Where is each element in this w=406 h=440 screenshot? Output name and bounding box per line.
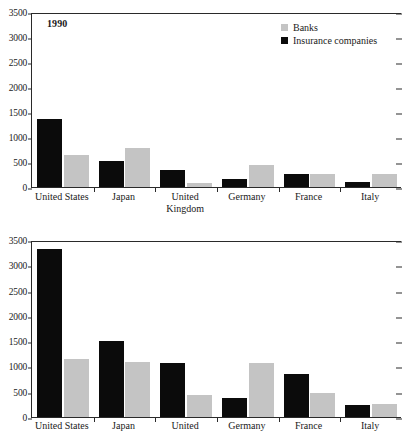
legend-label-insurance: Insurance companies (293, 35, 377, 46)
y-axis-tick-mark (28, 419, 33, 420)
y-axis-tick-mark (28, 164, 33, 165)
y-axis-tick-mark (28, 64, 33, 65)
y-axis-tick-mark-right (396, 317, 402, 318)
y-axis-tick-mark-right (396, 64, 402, 65)
bar-banks (310, 393, 335, 417)
y-axis-tick-label: 2000 (1, 84, 27, 94)
x-axis-category-label: Japan (112, 191, 135, 203)
bar-banks (249, 363, 274, 417)
y-axis-tick-label: 3500 (1, 237, 27, 247)
bar-banks (64, 155, 89, 187)
y-axis-tick-mark (28, 393, 33, 394)
bar-insurance (222, 179, 247, 187)
chart-panel-2001: 0500100015002000250030003500 2001 Banks … (0, 220, 406, 440)
x-axis-category-label: United (172, 420, 199, 432)
y-axis-tick-label: 3000 (1, 263, 27, 273)
x-axis-category-label: Japan (112, 420, 135, 432)
y-axis-tick-mark-right (396, 393, 402, 394)
y-axis-tick-mark (28, 317, 33, 318)
bar-insurance (37, 119, 62, 187)
y-axis-tick-mark (28, 39, 33, 40)
y-axis-tick-mark (28, 89, 33, 90)
y-axis-tick-mark-right (396, 343, 402, 344)
legend-item-banks: Banks (281, 21, 377, 33)
bar-banks (64, 359, 89, 417)
year-label-1990: 1990 (47, 18, 67, 29)
y-axis-tick-mark (28, 114, 33, 115)
bar-banks (310, 174, 335, 188)
y-axis-tick-label: 2500 (1, 288, 27, 298)
y-axis-tick-mark (28, 267, 33, 268)
y-axis-tick-label: 1500 (1, 338, 27, 348)
y-axis-tick-mark-right (396, 419, 402, 420)
y-axis-tick-label: 3000 (1, 34, 27, 44)
legend-item-insurance: Insurance companies (281, 34, 377, 46)
y-axis-tick-label: 1500 (1, 109, 27, 119)
x-axis-category-label: France (295, 420, 322, 432)
x-axis-category-label: United States (35, 420, 89, 432)
bar-insurance (37, 249, 62, 417)
y-axis-tick-label: 1000 (1, 364, 27, 374)
y-axis-tick-mark-right (396, 114, 402, 115)
y-axis-tick-mark-right (396, 189, 402, 190)
y-axis-tick-mark (28, 189, 33, 190)
y-axis-tick-mark (28, 343, 33, 344)
x-axis-tick-mark (279, 187, 280, 192)
x-axis-category-label: Germany (228, 420, 265, 432)
bar-insurance (345, 405, 370, 417)
bar-banks (249, 165, 274, 188)
y-axis-tick-mark-right (396, 292, 402, 293)
bar-insurance (99, 161, 124, 187)
y-axis-tick-mark-right (396, 139, 402, 140)
bar-insurance (160, 170, 185, 187)
bar-banks (125, 148, 150, 187)
legend-label-banks: Banks (293, 22, 318, 33)
bar-insurance (284, 174, 309, 187)
y-axis-tick-mark-right (396, 368, 402, 369)
x-axis-tick-mark (340, 417, 341, 422)
y-axis-tick-mark (28, 139, 33, 140)
y-axis-tick-label: 3500 (1, 9, 27, 19)
x-axis-category-label: Germany (228, 191, 265, 203)
x-axis-tick-mark (94, 417, 95, 422)
y-axis-tick-mark-right (396, 164, 402, 165)
dual-bar-chart-figure: 0500100015002000250030003500 1990 Banks … (0, 0, 406, 440)
y-axis-tick-label: 500 (1, 159, 27, 169)
x-axis-tick-mark (155, 187, 156, 192)
bar-insurance (284, 374, 309, 417)
plot-area-2001: 0500100015002000250030003500 (31, 241, 401, 418)
y-axis-tick-mark (28, 292, 33, 293)
bar-insurance (99, 341, 124, 417)
legend-swatch-insurance-icon (281, 37, 288, 44)
bar-banks (372, 174, 397, 187)
bar-insurance (345, 182, 370, 187)
legend-swatch-banks-icon (281, 24, 288, 31)
y-axis-tick-label: 2000 (1, 313, 27, 323)
x-axis-tick-mark (217, 187, 218, 192)
y-axis-tick-mark-right (396, 267, 402, 268)
x-axis-tick-mark (279, 417, 280, 422)
bar-banks (372, 404, 397, 417)
x-axis-category-label: United Kingdom (166, 191, 204, 214)
x-axis-category-label: Italy (361, 420, 379, 432)
y-axis-tick-mark (28, 242, 33, 243)
legend-1990: Banks Insurance companies (281, 21, 377, 47)
x-axis-tick-mark (217, 417, 218, 422)
bar-insurance (222, 398, 247, 417)
bar-banks (187, 183, 212, 188)
y-axis-tick-label: 500 (1, 389, 27, 399)
chart-panel-1990: 0500100015002000250030003500 1990 Banks … (0, 0, 406, 220)
x-axis-tick-mark (155, 417, 156, 422)
y-axis-tick-label: 2500 (1, 59, 27, 69)
y-axis-tick-label: 0 (1, 414, 27, 424)
x-axis-category-label: France (295, 191, 322, 203)
x-axis-tick-mark (94, 187, 95, 192)
bar-insurance (160, 363, 185, 417)
y-axis-tick-label: 0 (1, 184, 27, 194)
bar-banks (187, 395, 212, 417)
bar-banks (125, 362, 150, 417)
y-axis-tick-label: 1000 (1, 134, 27, 144)
y-axis-tick-mark-right (396, 39, 402, 40)
x-axis-category-label: United States (35, 191, 89, 203)
y-axis-tick-mark-right (396, 89, 402, 90)
